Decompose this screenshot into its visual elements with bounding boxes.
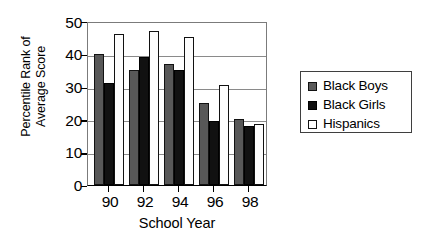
bar-series-container <box>88 23 266 185</box>
bar-92-hispanics <box>149 31 159 185</box>
chart-legend: Black Boys Black Girls Hispanics <box>300 71 412 133</box>
x-tick-mark-94 <box>178 186 179 192</box>
legend-item-black-boys: Black Boys <box>308 77 411 95</box>
bar-92-black-boys <box>129 70 139 185</box>
bar-94-black-boys <box>164 64 174 185</box>
bar-94-black-girls <box>174 70 184 185</box>
bar-96-black-girls <box>209 121 219 185</box>
y-tick-label-0: 0 <box>42 178 82 194</box>
x-tick-label-94: 94 <box>160 194 200 210</box>
bar-98-black-boys <box>234 119 244 185</box>
y-tick-label-50: 50 <box>42 15 82 31</box>
y-tick-label-40: 40 <box>42 47 82 63</box>
bar-90-black-girls <box>104 83 114 185</box>
legend-swatch-black-girls-icon <box>308 101 317 110</box>
plot-area <box>87 22 267 186</box>
bar-chart-figure: Percentile Rank of Average Score 50 40 3… <box>0 0 426 249</box>
x-tick-mark-98 <box>248 186 249 192</box>
legend-item-black-girls: Black Girls <box>308 96 411 114</box>
x-tick-label-96: 96 <box>195 194 235 210</box>
bar-group-96 <box>199 23 229 185</box>
y-tick-mark-0 <box>81 186 87 187</box>
bar-group-98 <box>234 23 264 185</box>
bar-92-black-girls <box>139 57 149 185</box>
x-tick-label-90: 90 <box>90 194 130 210</box>
legend-swatch-black-boys-icon <box>308 82 317 91</box>
x-tick-mark-96 <box>213 186 214 192</box>
legend-swatch-hispanics-icon <box>308 120 317 129</box>
bar-90-hispanics <box>114 34 124 185</box>
y-tick-label-10: 10 <box>42 145 82 161</box>
y-tick-label-20: 20 <box>42 113 82 129</box>
legend-label-black-girls: Black Girls <box>323 98 385 112</box>
bar-98-hispanics <box>254 124 264 185</box>
legend-item-hispanics: Hispanics <box>308 115 411 133</box>
bar-group-92 <box>129 23 159 185</box>
x-tick-label-98: 98 <box>230 194 270 210</box>
legend-label-black-boys: Black Boys <box>323 79 388 93</box>
bar-90-black-boys <box>94 54 104 185</box>
bar-group-90 <box>94 23 124 185</box>
bar-96-hispanics <box>219 85 229 185</box>
bar-94-hispanics <box>184 37 194 185</box>
bar-group-94 <box>164 23 194 185</box>
x-tick-mark-90 <box>108 186 109 192</box>
y-tick-label-30: 30 <box>42 80 82 96</box>
legend-label-hispanics: Hispanics <box>323 117 380 131</box>
bar-98-black-girls <box>244 126 254 185</box>
x-tick-label-92: 92 <box>125 194 165 210</box>
x-axis-title: School Year <box>87 215 267 231</box>
bar-96-black-boys <box>199 103 209 185</box>
x-tick-mark-92 <box>143 186 144 192</box>
